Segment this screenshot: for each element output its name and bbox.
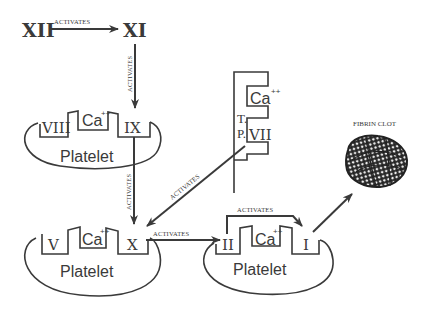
platelet-label-lower-left: Platelet (60, 263, 114, 280)
calcium-charge-upper: ++ (101, 109, 111, 118)
label-activates-xi-ix: ACTIVATES (126, 55, 133, 92)
factor-vii: VII (248, 126, 272, 144)
tissue-factor-p: P. (237, 126, 246, 141)
calcium-charge-tp: ++ (271, 87, 281, 96)
calcium-charge-lower-left: ++ (100, 227, 110, 236)
calcium-tp: Ca (250, 90, 271, 107)
platelet-label-upper: Platelet (60, 148, 114, 165)
factor-v: V (47, 236, 60, 254)
label-activates-ii-i: ACTIVATES (237, 206, 274, 213)
arrow-i-fibrin (313, 194, 352, 232)
fibrin-clot-label: FIBRIN CLOT (353, 120, 397, 128)
platelet-label-lower-right: Platelet (233, 261, 287, 278)
factor-ii: II (222, 236, 234, 254)
platelet-lower-left: V Ca ++ X Platelet (25, 227, 161, 296)
label-activates-xii-xi: ACTIVATES (54, 18, 91, 25)
label-activates-x-ii: ACTIVATES (153, 230, 190, 237)
calcium-charge-lower-right: ++ (273, 227, 283, 236)
coagulation-diagram: XII ACTIVATES XI ACTIVATES VIII Ca ++ IX… (0, 0, 428, 313)
factor-ix: IX (124, 119, 141, 137)
platelet-lower-right: II Ca ++ I Platelet (204, 226, 333, 294)
tissue-factor-t: T. (237, 111, 247, 126)
label-activates-ix-x: ACTIVATES (125, 173, 132, 210)
factor-i: I (303, 236, 309, 254)
calcium-upper: Ca (82, 112, 103, 129)
tissue-factor-complex: Ca ++ T. P. VII (234, 72, 281, 193)
platelet-upper: VIII Ca ++ IX Platelet (25, 109, 161, 169)
fibrin-clot (346, 136, 407, 188)
factor-x: X (127, 236, 138, 254)
factor-viii: VIII (41, 119, 71, 137)
factor-xi: XI (123, 19, 147, 41)
arrow-vii-x (147, 146, 245, 226)
factor-xii: XII (22, 19, 55, 41)
